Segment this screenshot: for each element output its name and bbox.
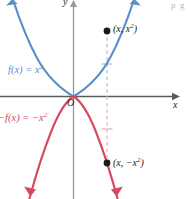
blue-function-label: f(x) = x2 bbox=[8, 65, 43, 76]
red-arrowhead-right bbox=[111, 187, 123, 197]
y-axis-arrowhead bbox=[70, 0, 77, 7]
origin-label: O bbox=[67, 98, 74, 108]
parabola-reflection-figure: f(x) = x2 −f(x) = −x2 (x, x2) (x, −x2) O… bbox=[0, 0, 187, 199]
point-label-lower-open: (x, −x bbox=[113, 157, 137, 168]
y-axis-label: y bbox=[63, 0, 67, 7]
point-label-upper-open: (x, x bbox=[113, 23, 130, 34]
blue-arrowhead-right bbox=[130, 0, 141, 6]
graph-canvas bbox=[0, 0, 187, 199]
red-function-label-text: −f(x) = −x bbox=[0, 112, 44, 123]
x-axis-label: x bbox=[173, 100, 177, 110]
red-arrowhead-left bbox=[24, 187, 36, 197]
x-axis bbox=[0, 93, 180, 100]
blue-arrowhead-left bbox=[6, 0, 17, 6]
point-marker-upper bbox=[104, 28, 111, 35]
point-label-lower-close: ) bbox=[140, 157, 143, 168]
point-label-lower: (x, −x2) bbox=[113, 158, 144, 168]
red-function-label: −f(x) = −x2 bbox=[0, 113, 47, 124]
point-label-upper-close: ) bbox=[134, 23, 137, 34]
blue-function-label-text: f(x) = x bbox=[8, 64, 40, 75]
blue-function-exponent: 2 bbox=[40, 63, 44, 71]
point-label-upper: (x, x2) bbox=[113, 24, 137, 34]
point-marker-lower bbox=[104, 160, 111, 167]
red-function-exponent: 2 bbox=[44, 111, 48, 119]
margin-note-text: p g bbox=[171, 0, 187, 26]
